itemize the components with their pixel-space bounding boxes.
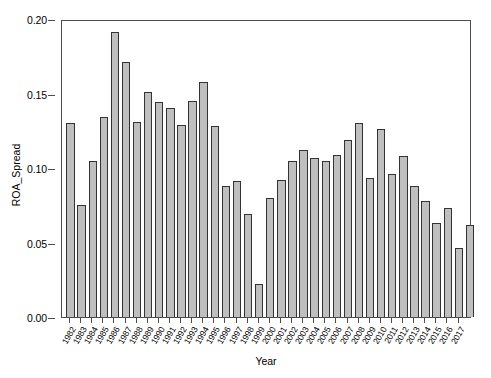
bar [466, 225, 474, 317]
y-axis-title: ROA_Spread [10, 115, 22, 235]
bar [366, 178, 374, 317]
x-tick-slot: 1983 [75, 318, 86, 378]
bar-slot [398, 21, 409, 317]
bar-slot [342, 21, 353, 317]
x-tick-slot: 1994 [197, 318, 208, 378]
bar-slot [154, 21, 165, 317]
bar-slot [120, 21, 131, 317]
x-tick-slot: 1993 [186, 318, 197, 378]
x-tick-slot: 2017 [453, 318, 464, 378]
x-tick-slot: 1986 [108, 318, 119, 378]
x-tick-slot: 2004 [308, 318, 319, 378]
bar-slot [143, 21, 154, 317]
x-tick-slot: 2002 [286, 318, 297, 378]
bar [410, 186, 418, 317]
x-tick-slot: 1988 [131, 318, 142, 378]
x-tick-mark [413, 318, 414, 323]
x-tick-mark [335, 318, 336, 323]
x-tick-slot: 1997 [231, 318, 242, 378]
x-tick-mark [324, 318, 325, 323]
x-tick-mark [280, 318, 281, 323]
bar-slot [320, 21, 331, 317]
x-tick-slot: 1992 [175, 318, 186, 378]
x-tick-slot: 1998 [242, 318, 253, 378]
chart-figure: ROA_Spread 0.000.050.100.150.20 19821983… [0, 0, 491, 378]
bar-slot [187, 21, 198, 317]
x-tick-mark [302, 318, 303, 323]
x-tick-mark [202, 318, 203, 323]
bar-slot [109, 21, 120, 317]
bar-slot [376, 21, 387, 317]
bar [388, 174, 396, 317]
bar-slot [276, 21, 287, 317]
x-tick-slot: 2011 [386, 318, 397, 378]
bar [444, 208, 452, 317]
bar [144, 92, 152, 317]
bar-slot [231, 21, 242, 317]
x-tick-mark [180, 318, 181, 323]
bar [155, 102, 163, 317]
x-tick-mark [291, 318, 292, 323]
bar-slot [76, 21, 87, 317]
x-tick-slot: 1984 [86, 318, 97, 378]
bar [111, 32, 119, 317]
y-tick-label: 0.05 [27, 238, 47, 250]
bar [255, 284, 263, 317]
x-tick-slot: 2009 [364, 318, 375, 378]
x-tick-slot: 1985 [97, 318, 108, 378]
bar-slot [132, 21, 143, 317]
bar-slot [309, 21, 320, 317]
x-tick-mark [236, 318, 237, 323]
bar [399, 156, 407, 317]
bar-slot [442, 21, 453, 317]
x-tick-slot: 1995 [208, 318, 219, 378]
x-tick-mark [458, 318, 459, 323]
bar [66, 123, 74, 317]
bar [133, 122, 141, 317]
x-tick-mark [358, 318, 359, 323]
x-tick-mark [136, 318, 137, 323]
x-tick-mark [91, 318, 92, 323]
bar-slot [387, 21, 398, 317]
x-tick-slot: 2008 [353, 318, 364, 378]
x-tick-slot: 2015 [430, 318, 441, 378]
x-tick-mark [80, 318, 81, 323]
x-tick-slot: 1982 [64, 318, 75, 378]
x-tick-slot: 2001 [275, 318, 286, 378]
bar [100, 117, 108, 317]
bar [77, 205, 85, 317]
y-tick-label: 0.20 [27, 14, 47, 26]
x-tick-slot: 2006 [330, 318, 341, 378]
y-tick-mark [48, 244, 55, 245]
bar [299, 150, 307, 317]
bar [233, 181, 241, 317]
bar [355, 123, 363, 317]
x-tick-mark [402, 318, 403, 323]
bar-slot [331, 21, 342, 317]
x-tick-mark [191, 318, 192, 323]
x-tick-mark [269, 318, 270, 323]
bar-slot [353, 21, 364, 317]
bar-slot [220, 21, 231, 317]
bar [333, 155, 341, 317]
x-tick-mark [113, 318, 114, 323]
x-tick-slot: 2010 [375, 318, 386, 378]
x-tick-slot: 2014 [419, 318, 430, 378]
bar [322, 161, 330, 317]
bar [222, 186, 230, 317]
bar-slot [409, 21, 420, 317]
bar [432, 223, 440, 317]
bar-slot [98, 21, 109, 317]
x-tick-slot: 2007 [342, 318, 353, 378]
bar-slot [298, 21, 309, 317]
bar [421, 201, 429, 317]
x-tick-mark [247, 318, 248, 323]
x-tick-slot: 2016 [441, 318, 452, 378]
x-axis: 1982198319841985198619871988198919901991… [61, 318, 471, 378]
bar [344, 140, 352, 317]
x-tick-slot: 1996 [219, 318, 230, 378]
x-tick-mark [102, 318, 103, 323]
x-tick-slot: 2003 [297, 318, 308, 378]
x-tick-slot: 1987 [120, 318, 131, 378]
x-tick-slot: 1989 [142, 318, 153, 378]
